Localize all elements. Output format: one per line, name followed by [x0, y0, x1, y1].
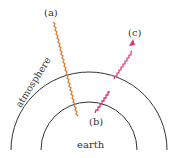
label-b: (b) [89, 117, 103, 127]
label-a: (a) [44, 8, 58, 18]
arrowhead-icon [129, 39, 135, 46]
outgoing-ray-upper [114, 51, 132, 79]
incoming-ray [53, 22, 78, 116]
label-earth: earth [77, 140, 104, 150]
label-c: (c) [128, 28, 141, 38]
diagram-canvas [0, 0, 178, 158]
